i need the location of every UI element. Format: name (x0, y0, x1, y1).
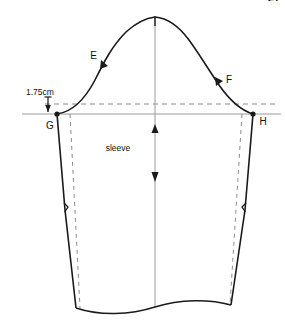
label-point-f: F (226, 74, 232, 85)
grainline-arrow-up-icon (152, 124, 159, 133)
right-underarm-seam (231, 114, 253, 305)
sleeve-hem-curve (76, 301, 231, 314)
pattern-drawing-canvas: E F G H 1.75cm sleeve (0, 0, 285, 323)
sleeve-pattern-figure: 27 (0, 0, 285, 323)
label-point-e: E (90, 50, 97, 61)
label-measurement: 1.75cm (26, 87, 54, 97)
point-marker-g (54, 111, 59, 116)
grainline-arrow-down-icon (152, 172, 159, 182)
point-marker-h (250, 111, 255, 116)
label-point-g: G (46, 120, 54, 131)
left-underarm-seam (57, 114, 76, 308)
label-point-h: H (259, 116, 266, 127)
label-piece-name: sleeve (106, 143, 131, 153)
sleeve-cap-curve-right (155, 17, 253, 114)
page-number: 27 (268, 0, 281, 1)
left-construction-dashed-line (70, 114, 80, 308)
measurement-arrow-down-icon (45, 105, 51, 112)
